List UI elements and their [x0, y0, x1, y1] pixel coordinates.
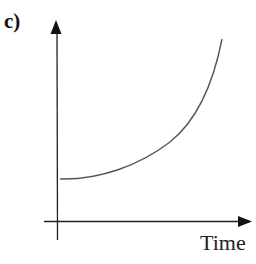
x-axis-label: Time — [200, 232, 246, 254]
x-axis-arrow-icon — [238, 216, 252, 227]
y-axis — [57, 32, 58, 240]
growth-curve — [60, 39, 222, 179]
chart-plot — [0, 0, 256, 264]
y-axis-arrow-icon — [51, 20, 62, 34]
